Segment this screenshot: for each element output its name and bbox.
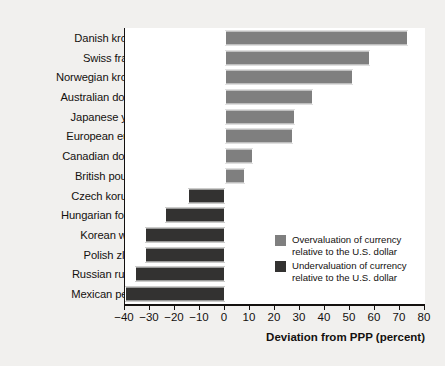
- x-axis-tick-label: −20: [164, 311, 184, 323]
- x-axis-tick-label: 50: [343, 311, 356, 323]
- x-axis-tick-label: 20: [268, 311, 281, 323]
- bar-european-euro: [225, 129, 293, 144]
- x-axis-tick-label: −30: [139, 311, 159, 323]
- bar-row: [125, 127, 425, 147]
- x-axis-tick: [324, 305, 325, 310]
- bar-row: [125, 205, 425, 225]
- bar-row: [125, 186, 425, 206]
- bar-row: [125, 166, 425, 186]
- bar-canadian-dollar: [225, 149, 253, 164]
- bar-korean-won: [145, 228, 225, 243]
- x-axis-tick: [249, 305, 250, 310]
- x-axis-tick: [424, 305, 425, 310]
- bar-row: [125, 48, 425, 68]
- x-axis-tick: [274, 305, 275, 310]
- bar-row: [125, 284, 425, 304]
- x-axis-tick-label: 10: [243, 311, 256, 323]
- legend-swatch-icon: [275, 235, 286, 246]
- x-axis-tick-label: 80: [418, 311, 431, 323]
- bar-hungarian-forint: [165, 208, 225, 223]
- bar-row: [125, 28, 425, 48]
- x-axis-tick: [399, 305, 400, 310]
- bar-polish-zloty: [145, 247, 225, 262]
- legend-label-line2: relative to the U.S. dollar: [292, 272, 407, 284]
- bar-norwegian-krone: [225, 70, 353, 85]
- legend-item: Overvaluation of currencyrelative to the…: [275, 234, 435, 257]
- legend-label: Overvaluation of currencyrelative to the…: [292, 234, 401, 257]
- legend-label: Undervaluation of currencyrelative to th…: [292, 260, 407, 283]
- x-axis-tick-label: −40: [114, 311, 134, 323]
- x-axis-tick-label: 30: [293, 311, 306, 323]
- x-axis-tick: [149, 305, 150, 310]
- legend-label-line2: relative to the U.S. dollar: [292, 246, 401, 258]
- bar-australian-dollar: [225, 90, 313, 105]
- x-axis-tick-label: −10: [189, 311, 209, 323]
- x-axis-tick-label: 70: [393, 311, 406, 323]
- x-axis-tick: [174, 305, 175, 310]
- x-axis-tick: [124, 305, 125, 310]
- legend-swatch-icon: [275, 261, 286, 272]
- legend-item: Undervaluation of currencyrelative to th…: [275, 260, 435, 283]
- x-axis-tick-label: 40: [318, 311, 331, 323]
- bar-swiss-franc: [225, 50, 370, 65]
- bar-row: [125, 146, 425, 166]
- bar-japanese-yen: [225, 109, 295, 124]
- x-axis-tick: [374, 305, 375, 310]
- bar-row: [125, 107, 425, 127]
- chart-legend: Overvaluation of currencyrelative to the…: [275, 234, 435, 286]
- bar-danish-krone: [225, 30, 408, 45]
- x-axis-tick-label: 60: [368, 311, 381, 323]
- bar-row: [125, 87, 425, 107]
- x-axis-tick: [224, 305, 225, 310]
- x-axis-tick-label: 0: [221, 311, 227, 323]
- legend-label-line1: Overvaluation of currency: [292, 234, 401, 246]
- x-axis-tick: [349, 305, 350, 310]
- legend-label-line1: Undervaluation of currency: [292, 260, 407, 272]
- chart-figure: Danish kroneSwiss francNorwegian kroneAu…: [0, 0, 445, 366]
- bar-russian-ruble: [135, 267, 225, 282]
- bar-row: [125, 67, 425, 87]
- x-axis-tick: [299, 305, 300, 310]
- bar-czech-koruna: [188, 188, 226, 203]
- bar-mexican-peso: [125, 287, 225, 302]
- x-axis-tick: [199, 305, 200, 310]
- bar-british-pound: [225, 168, 245, 183]
- x-axis-title: Deviation from PPP (percent): [266, 331, 425, 343]
